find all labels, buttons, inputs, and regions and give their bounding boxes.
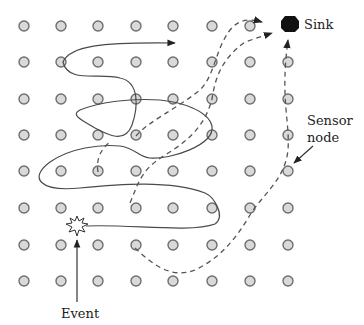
sensor-node	[245, 240, 255, 250]
sensor-node	[19, 94, 29, 104]
routes-to-sink	[98, 20, 289, 273]
sensor-node	[93, 276, 103, 286]
sensor-node	[93, 57, 103, 67]
sensor-node	[283, 57, 293, 67]
sensor-node	[19, 240, 29, 250]
sensor-node	[283, 203, 293, 213]
sensor-network-diagram: Sink Sensor node Event	[0, 0, 364, 325]
sensor-node	[283, 240, 293, 250]
sensor-pointer-arrow	[294, 146, 313, 163]
sensor-node	[56, 130, 66, 140]
sensor-node-grid	[19, 21, 293, 286]
sensor-node	[245, 57, 255, 67]
sensor-node	[245, 130, 255, 140]
sensor-node	[131, 166, 141, 176]
sensor-node	[207, 21, 217, 31]
sensor-node	[207, 166, 217, 176]
sensor-node	[245, 166, 255, 176]
sensor-node	[56, 276, 66, 286]
sensor-node	[283, 276, 293, 286]
sensor-node	[283, 94, 293, 104]
sensor-node	[168, 240, 178, 250]
sensor-node	[131, 21, 141, 31]
sensor-node	[93, 94, 103, 104]
sensor-node	[56, 203, 66, 213]
sink-node	[281, 16, 299, 32]
sensor-node	[19, 57, 29, 67]
sensor-node	[56, 94, 66, 104]
event-burst-icon	[66, 216, 88, 236]
sensor-label-line2: node	[307, 130, 340, 145]
sensor-node	[131, 57, 141, 67]
event-label: Event	[61, 306, 100, 321]
sensor-node	[207, 203, 217, 213]
sensor-node	[19, 276, 29, 286]
sensor-node	[19, 21, 29, 31]
sensor-node	[56, 240, 66, 250]
sensor-node	[168, 203, 178, 213]
sensor-node	[93, 21, 103, 31]
sensor-node	[56, 166, 66, 176]
sensor-node	[131, 276, 141, 286]
sensor-node	[19, 130, 29, 140]
sensor-node	[93, 203, 103, 213]
sensor-node	[207, 240, 217, 250]
sensor-node	[283, 166, 293, 176]
sensor-node	[56, 21, 66, 31]
sensor-node	[131, 203, 141, 213]
sensor-node	[168, 166, 178, 176]
sensor-node	[245, 94, 255, 104]
sensor-node	[168, 57, 178, 67]
sensor-node	[168, 130, 178, 140]
sensor-node	[93, 240, 103, 250]
sensor-node	[19, 203, 29, 213]
sensor-node	[131, 130, 141, 140]
sink-label: Sink	[304, 17, 333, 32]
sensor-node	[245, 276, 255, 286]
sensor-label-line1: Sensor	[307, 113, 353, 128]
sensor-node	[168, 276, 178, 286]
sensor-node	[19, 166, 29, 176]
sensor-node	[207, 276, 217, 286]
sensor-node	[245, 21, 255, 31]
sensor-node	[168, 21, 178, 31]
sensor-node	[245, 203, 255, 213]
